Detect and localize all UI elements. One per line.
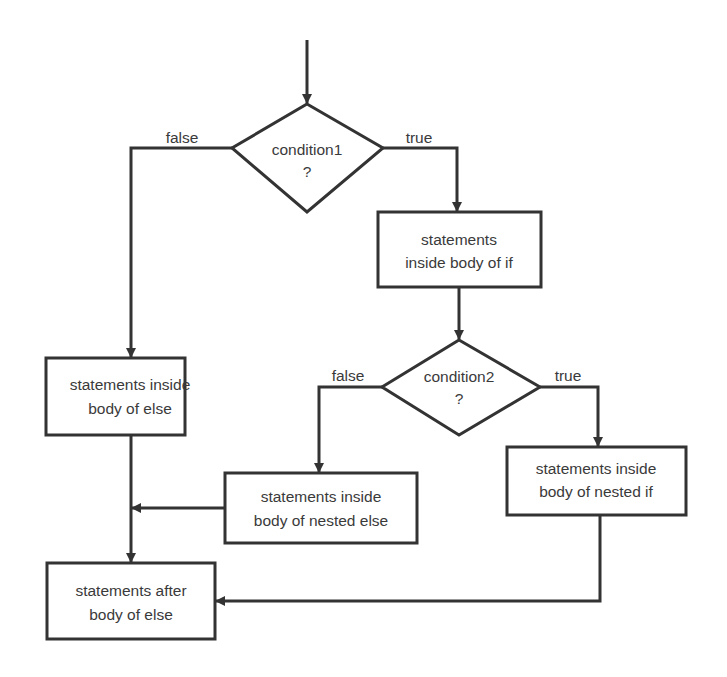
after-else-box [47, 563, 215, 639]
nested-else-line1: statements inside [261, 488, 382, 505]
condition1-diamond [232, 104, 383, 212]
condition2-label: condition2 [424, 368, 495, 385]
c1-false-label: false [166, 129, 199, 146]
nested-if-line2: body of nested if [539, 483, 653, 500]
nested-if-box [507, 447, 686, 515]
nested-else-line2: body of nested else [254, 512, 388, 529]
if-body-line2: inside body of if [405, 254, 513, 271]
c1-false-edge [131, 148, 232, 357]
condition2-diamond [382, 340, 540, 435]
flowchart-canvas: condition1 ? false true statements insid… [0, 0, 727, 677]
c1-true-label: true [406, 129, 433, 146]
else-body-line1: statements inside [70, 376, 191, 393]
if-body-box [378, 212, 541, 287]
if-body-line1: statements [421, 231, 497, 248]
c2-true-label: true [555, 367, 582, 384]
nested-if-line1: statements inside [536, 460, 657, 477]
condition1-label: condition1 [272, 141, 343, 158]
after-else-line2: body of else [89, 606, 173, 623]
c1-true-edge [383, 148, 457, 211]
nested-else-box [225, 473, 417, 543]
else-body-line2: body of else [88, 400, 172, 417]
c2-false-edge [319, 387, 382, 472]
c2-false-label: false [332, 367, 365, 384]
condition2-q: ? [455, 390, 464, 407]
c2-true-edge [540, 387, 598, 446]
else-body-box [46, 358, 185, 435]
condition1-q: ? [303, 163, 312, 180]
after-else-line1: statements after [75, 582, 186, 599]
